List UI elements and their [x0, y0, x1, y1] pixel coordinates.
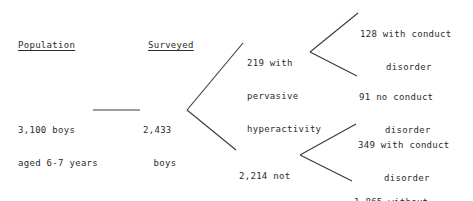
node-surveyed: 2,433 boys: [143, 103, 187, 191]
tree-diagram-canvas: Population Surveyed 3,100 boys aged 6-7 …: [0, 0, 473, 201]
connector-surveyed-to-nonhyperactive: [187, 110, 236, 150]
node-nonhyper-conduct-disorder-line1: 349 with conduct: [358, 140, 450, 151]
node-hyper-no-conduct-disorder-line1: 91 no conduct: [359, 92, 433, 103]
node-hyperactive: 219 with pervasive hyperactivity: [247, 36, 321, 157]
node-hyperactive-line3: hyperactivity: [247, 124, 321, 135]
node-nonhyper-no-conduct-disorder-line1: 1,865 without: [354, 197, 452, 201]
node-hyperactive-line2: pervasive: [247, 91, 321, 102]
node-surveyed-line1: 2,433: [143, 125, 187, 136]
node-not-hyperactive-line1: 2,214 not: [239, 171, 308, 182]
node-hyperactive-line1: 219 with: [247, 58, 321, 69]
node-population-root: 3,100 boys aged 6-7 years: [18, 103, 98, 191]
column-header-population: Population: [18, 40, 75, 51]
node-population-line2: aged 6-7 years: [18, 158, 98, 169]
node-population-line1: 3,100 boys: [18, 125, 98, 136]
node-surveyed-line2: boys: [143, 158, 187, 169]
column-header-surveyed: Surveyed: [148, 40, 194, 51]
node-not-hyperactive: 2,214 not hyperactive: [239, 149, 308, 201]
node-hyper-conduct-disorder-line1: 128 with conduct: [360, 29, 452, 40]
node-nonhyper-no-conduct-disorder: 1,865 without conduct disorder: [354, 175, 452, 201]
connector-surveyed-to-hyperactive: [187, 43, 243, 110]
